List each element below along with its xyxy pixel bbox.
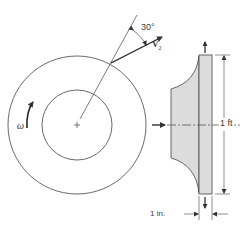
- angle-label: 30°: [141, 23, 155, 32]
- velocity-label: V2: [152, 40, 162, 51]
- disk-plate-section: [199, 55, 212, 194]
- width-dimension-label: 1 in.: [150, 210, 165, 218]
- height-dimension-label: 1 ft: [219, 119, 234, 128]
- center-mark-icon: [74, 122, 80, 128]
- omega-rotation-arrow: [27, 102, 33, 128]
- hub-profile: [171, 56, 199, 193]
- angle-arc: [133, 30, 146, 45]
- velocity-subscript: 2: [159, 45, 162, 51]
- radial-line: [80, 15, 137, 119]
- diagram-canvas: [0, 0, 249, 232]
- omega-label: ω: [17, 121, 24, 131]
